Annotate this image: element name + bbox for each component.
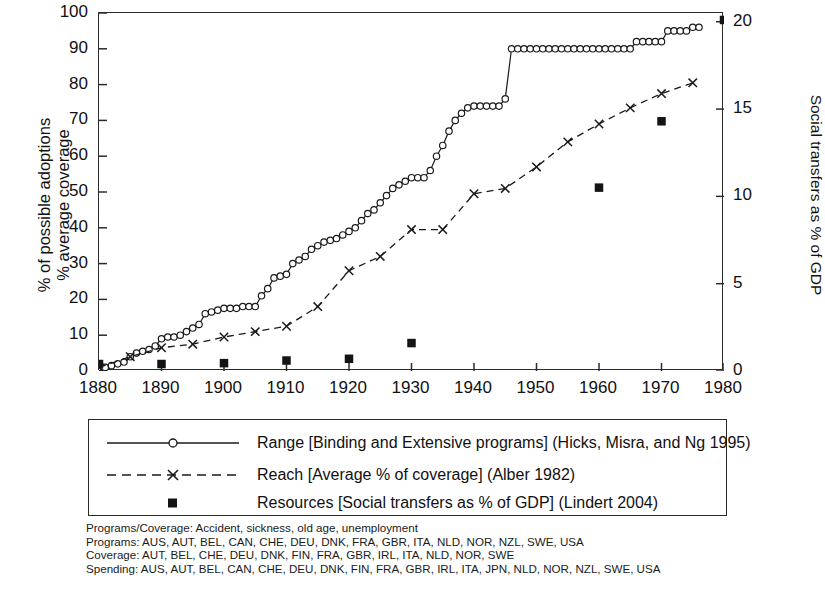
series-range-point bbox=[652, 38, 658, 44]
series-reach-point bbox=[345, 267, 353, 275]
series-range-point bbox=[358, 217, 364, 223]
series-range-point bbox=[596, 46, 602, 52]
series-range-point bbox=[533, 46, 539, 52]
y-axis-right-tick-label: 0 bbox=[733, 360, 773, 380]
x-axis-tick-label: 1970 bbox=[631, 378, 691, 398]
series-reach-point bbox=[314, 302, 322, 310]
series-reach-point bbox=[595, 120, 603, 128]
y-axis-right-tick-label: 20 bbox=[733, 11, 773, 31]
y-axis-left-tick-label: 100 bbox=[36, 2, 88, 22]
x-axis-tick-label: 1950 bbox=[506, 378, 566, 398]
series-range-point bbox=[390, 185, 396, 191]
series-resources-point bbox=[220, 359, 229, 368]
x-axis-tick-label: 1920 bbox=[318, 378, 378, 398]
series-reach-point bbox=[407, 225, 415, 233]
figure-note-line: Coverage: AUT, BEL, CHE, DEU, DNK, FIN, … bbox=[86, 548, 786, 562]
series-range-point bbox=[396, 182, 402, 188]
y-axis-left-tick-label: 0 bbox=[36, 360, 88, 380]
legend-item: Resources [Social transfers as % of GDP]… bbox=[89, 490, 726, 516]
series-range-point bbox=[183, 328, 189, 334]
series-range-point bbox=[658, 38, 664, 44]
legend-item: Reach [Average % of coverage] (Alber 198… bbox=[89, 462, 726, 488]
y-axis-right-tick-label: 15 bbox=[733, 98, 773, 118]
series-range-point bbox=[408, 174, 414, 180]
series-range-point bbox=[371, 207, 377, 213]
series-range-point bbox=[696, 24, 702, 30]
plot-canvas bbox=[99, 13, 724, 371]
y-axis-left-tick-label: 20 bbox=[36, 288, 88, 308]
series-range-point bbox=[446, 128, 452, 134]
series-range-point bbox=[546, 46, 552, 52]
series-reach-point bbox=[657, 89, 665, 97]
y-axis-right-tick-label: 10 bbox=[733, 185, 773, 205]
y-axis-left-tick-label: 40 bbox=[36, 217, 88, 237]
series-range-point bbox=[283, 271, 289, 277]
series-range-point bbox=[440, 142, 446, 148]
series-range-point bbox=[258, 293, 264, 299]
series-range-point bbox=[615, 46, 621, 52]
series-range-point bbox=[646, 38, 652, 44]
series-range-point bbox=[540, 46, 546, 52]
series-reach-line bbox=[99, 83, 693, 368]
series-resources-point bbox=[345, 355, 354, 364]
series-range-point bbox=[490, 103, 496, 109]
series-resources-point bbox=[657, 117, 666, 126]
series-range-point bbox=[340, 232, 346, 238]
series-range-point bbox=[346, 228, 352, 234]
figure-note-line: Spending: AUS, AUT, BEL, CAN, CHE, DEU, … bbox=[86, 562, 786, 576]
figure-note-line: Programs/Coverage: Accident, sickness, o… bbox=[86, 521, 786, 535]
series-range-point bbox=[477, 103, 483, 109]
series-range-point bbox=[583, 46, 589, 52]
series-range-point bbox=[577, 46, 583, 52]
x-axis-tick-label: 1960 bbox=[568, 378, 628, 398]
series-range-point bbox=[508, 46, 514, 52]
series-resources-point bbox=[595, 183, 604, 192]
series-reach-point bbox=[376, 252, 384, 260]
series-range-point bbox=[202, 311, 208, 317]
series-reach-point bbox=[626, 104, 634, 112]
series-range-point bbox=[427, 167, 433, 173]
series-range-point bbox=[290, 260, 296, 266]
legend-dashed-line-x-marker bbox=[101, 462, 251, 488]
y-axis-left-tick-label: 70 bbox=[36, 109, 88, 129]
series-range-point bbox=[196, 321, 202, 327]
series-range-point bbox=[402, 178, 408, 184]
series-range-point bbox=[521, 46, 527, 52]
series-range-point bbox=[233, 305, 239, 311]
series-range-point bbox=[665, 28, 671, 34]
x-axis-tick-label: 1910 bbox=[256, 378, 316, 398]
x-axis-tick-label: 1930 bbox=[381, 378, 441, 398]
series-range-point bbox=[227, 305, 233, 311]
series-range-point bbox=[608, 46, 614, 52]
series-range-point bbox=[565, 46, 571, 52]
x-axis-tick-label: 1890 bbox=[131, 378, 191, 398]
series-reach-point bbox=[439, 225, 447, 233]
series-reach-point bbox=[564, 138, 572, 146]
series-range-point bbox=[321, 239, 327, 245]
series-range-point bbox=[496, 103, 502, 109]
figure-note-line: Programs: AUS, AUT, BEL, CAN, CHE, DEU, … bbox=[86, 535, 786, 549]
series-range-point bbox=[671, 28, 677, 34]
series-resources-point bbox=[157, 360, 166, 369]
legend-item: Range [Binding and Extensive programs] (… bbox=[89, 430, 726, 456]
y-axis-left-title: % of possible adoptions % average covera… bbox=[35, 55, 73, 355]
x-axis-tick-label: 1880 bbox=[68, 378, 128, 398]
series-range-point bbox=[333, 235, 339, 241]
series-range-point bbox=[246, 303, 252, 309]
series-range-point bbox=[165, 334, 171, 340]
series-range-point bbox=[302, 253, 308, 259]
series-range-point bbox=[515, 46, 521, 52]
series-resources-point bbox=[407, 339, 416, 348]
series-range-point bbox=[240, 303, 246, 309]
series-range-point bbox=[296, 257, 302, 263]
series-range-point bbox=[640, 38, 646, 44]
series-range-point bbox=[190, 325, 196, 331]
series-range-point bbox=[221, 305, 227, 311]
plot-area bbox=[98, 12, 723, 370]
series-range-point bbox=[502, 96, 508, 102]
series-resources-point bbox=[282, 356, 291, 365]
legend-label: Reach [Average % of coverage] (Alber 198… bbox=[257, 462, 575, 488]
y-axis-left-tick-label: 80 bbox=[36, 74, 88, 94]
x-axis-tick-label: 1900 bbox=[193, 378, 253, 398]
